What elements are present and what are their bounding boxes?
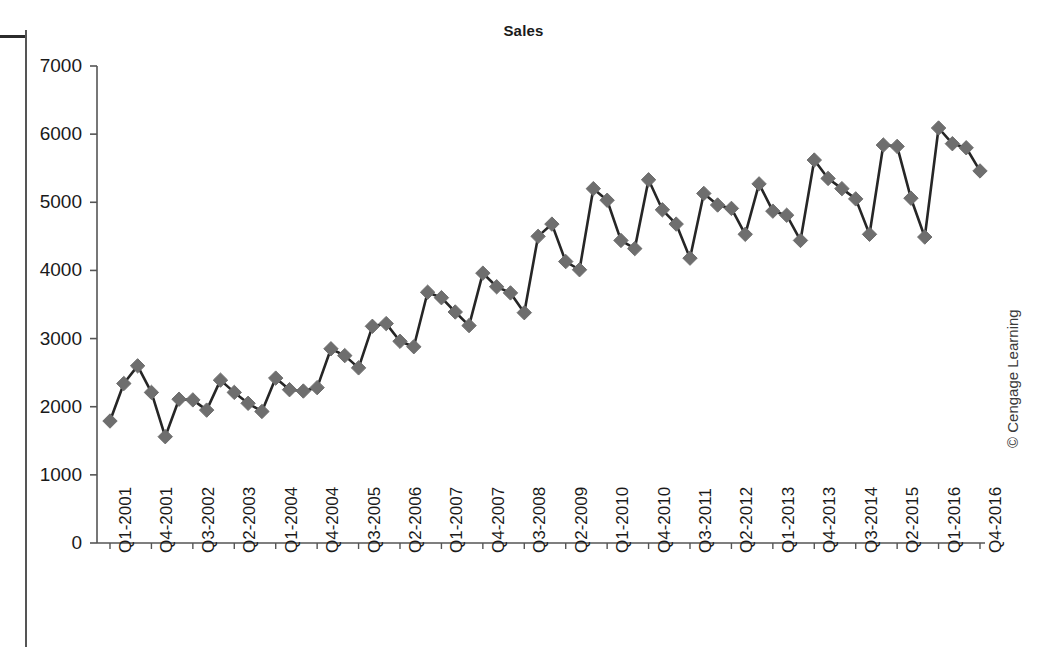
data-point-marker <box>103 414 117 428</box>
x-axis-tick-label: Q4-2010 <box>655 487 675 553</box>
copyright-credit: © Cengage Learning <box>1004 309 1021 448</box>
x-axis-tick-label: Q4-2007 <box>489 487 509 553</box>
x-axis-tick-label: Q4-2004 <box>323 487 343 553</box>
x-axis-tick-label: Q1-2004 <box>282 487 302 553</box>
y-axis-tick-label: 5000 <box>12 192 82 211</box>
x-axis-tick-label: Q3-2008 <box>530 487 550 553</box>
data-point-marker <box>324 342 338 356</box>
x-axis-tick-label: Q1-2016 <box>945 487 965 553</box>
data-point-marker <box>890 139 904 153</box>
x-axis-tick-label: Q2-2015 <box>903 487 923 553</box>
data-point-marker <box>407 340 421 354</box>
y-axis-tick-label: 4000 <box>12 260 82 279</box>
x-axis-tick-label: Q2-2006 <box>406 487 426 553</box>
data-point-marker <box>296 384 310 398</box>
x-axis-tick-label: Q1-2007 <box>447 487 467 553</box>
x-axis-tick-label: Q2-2012 <box>737 487 757 553</box>
data-point-marker <box>904 191 918 205</box>
data-point-marker <box>172 392 186 406</box>
x-axis-tick-label: Q3-2014 <box>862 487 882 553</box>
data-point-marker <box>641 173 655 187</box>
data-point-marker <box>559 254 573 268</box>
data-point-marker <box>158 429 172 443</box>
data-point-marker <box>628 241 642 255</box>
y-axis-tick-label: 6000 <box>12 124 82 143</box>
data-point-marker <box>365 319 379 333</box>
x-axis-tick-label: Q1-2001 <box>116 487 136 553</box>
data-point-marker <box>572 263 586 277</box>
data-point-marker <box>876 138 890 152</box>
y-axis-tick-label: 3000 <box>12 329 82 348</box>
data-point-marker <box>420 285 434 299</box>
y-axis-tick-label: 0 <box>12 533 82 552</box>
data-point-marker <box>144 385 158 399</box>
data-point-marker <box>973 164 987 178</box>
data-point-marker <box>683 251 697 265</box>
sales-line <box>110 128 980 437</box>
y-axis-tick-label: 2000 <box>12 397 82 416</box>
data-point-marker <box>793 233 807 247</box>
figure-page: Sales 01000200030004000500060007000 Q1-2… <box>0 0 1047 647</box>
x-axis-tick-label: Q2-2003 <box>240 487 260 553</box>
x-axis-tick-label: Q1-2010 <box>613 487 633 553</box>
y-axis-tick-label: 1000 <box>12 465 82 484</box>
x-axis-tick-label: Q4-2001 <box>157 487 177 553</box>
x-axis-tick-label: Q4-2016 <box>986 487 1006 553</box>
data-point-marker <box>752 177 766 191</box>
data-point-marker <box>614 233 628 247</box>
x-axis-tick-label: Q3-2011 <box>696 488 716 553</box>
data-point-marker <box>959 141 973 155</box>
data-point-marker <box>255 404 269 418</box>
x-axis-tick-label: Q3-2002 <box>199 487 219 553</box>
data-point-marker <box>862 227 876 241</box>
x-axis-tick-label: Q2-2009 <box>572 487 592 553</box>
x-axis-tick-label: Q1-2013 <box>779 487 799 553</box>
y-axis-tick-label: 7000 <box>12 56 82 75</box>
data-point-marker <box>918 230 932 244</box>
data-point-marker <box>766 204 780 218</box>
data-point-marker <box>310 380 324 394</box>
x-axis-tick-label: Q3-2005 <box>365 487 385 553</box>
data-point-marker <box>779 208 793 222</box>
x-axis-tick-label: Q4-2013 <box>820 487 840 553</box>
data-point-marker <box>724 201 738 215</box>
data-point-marker <box>738 227 752 241</box>
